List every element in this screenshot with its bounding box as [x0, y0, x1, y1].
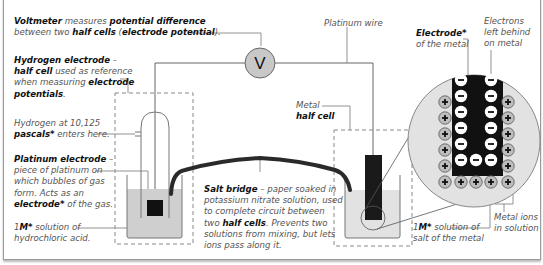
label-text: form. Acts as an	[14, 188, 84, 198]
voltmeter-symbol: V	[254, 54, 266, 73]
platinum-electrode-plate	[147, 200, 163, 216]
label-text: Electrode*	[416, 28, 466, 38]
label-text: solutions from mixing, but lets	[204, 229, 335, 239]
label-text: half cell	[296, 111, 334, 121]
label-text: Hydrogen at 10,125	[14, 118, 100, 128]
label-text: measures	[62, 16, 110, 26]
label-text: of the gas.	[64, 199, 113, 209]
label-text: electrode potential	[122, 27, 215, 37]
label-text: which bubbles of gas	[14, 176, 105, 186]
label-text: of the metal	[416, 39, 469, 49]
platinum-wire-label: Platinum wire	[324, 18, 383, 29]
label-text: ions pass along it.	[204, 240, 282, 250]
label-text: enters here.	[55, 129, 110, 139]
voltmeter: V	[245, 48, 275, 78]
metal-ions-label: Metal ions in solution	[494, 212, 539, 234]
label-text: M*	[19, 222, 32, 232]
hydrogen-electrode-label: Hydrogen electrode – half cell used as r…	[14, 55, 134, 100]
label-text: pascals*	[14, 129, 55, 139]
label-text: in solution	[494, 223, 539, 233]
label-text: solution of	[432, 222, 480, 232]
label-text: ).	[215, 27, 221, 37]
label-text: between two	[14, 27, 72, 37]
label-text: electrode	[88, 77, 134, 87]
label-text: Electrons	[484, 16, 524, 26]
label-text: Platinum wire	[324, 18, 383, 28]
label-text: potentials	[14, 89, 63, 99]
metal-electrode-rod	[365, 155, 382, 220]
label-text: left behind	[484, 27, 530, 37]
label-text: piece of platinum on	[14, 165, 102, 175]
electrode-metal-label: Electrode* of the metal	[416, 28, 469, 50]
label-text: used as reference	[52, 66, 132, 76]
label-text: Metal ions	[494, 212, 538, 222]
label-text: Hydrogen electrode	[14, 55, 110, 65]
label-text: when measuring	[14, 77, 88, 87]
hydrogen-gas-label: Hydrogen at 10,125 pascals* enters here.	[14, 118, 110, 140]
label-text: M*	[418, 222, 431, 232]
label-text: Voltmeter	[14, 16, 62, 26]
label-text: Platinum electrode	[14, 154, 106, 164]
label-text: . Prevents two	[266, 218, 328, 228]
label-text: – paper soaked in	[258, 184, 337, 194]
label-text: on metal	[484, 38, 522, 48]
hcl-solution-label: 1M* solution of hydrochloric acid.	[14, 222, 91, 244]
label-text: solution of	[33, 222, 81, 232]
label-text: potassium nitrate solution, used	[204, 195, 343, 205]
label-text: potential difference	[110, 16, 206, 26]
metal-half-cell-label: Metal half cell	[296, 100, 334, 122]
label-text: –	[110, 55, 117, 65]
magnified-view	[408, 70, 540, 207]
label-text: electrode*	[14, 199, 64, 209]
label-text: two	[204, 218, 222, 228]
label-text: half cell	[14, 66, 52, 76]
label-text: Metal	[296, 100, 320, 110]
salt-bridge-label: Salt bridge – paper soaked in potassium …	[204, 184, 343, 251]
label-text: salt of the metal	[413, 233, 484, 243]
label-text: half cells	[222, 218, 266, 228]
label-text: hydrochloric acid.	[14, 233, 91, 243]
label-text: Salt bridge	[204, 184, 258, 194]
metal-salt-solution-label: 1M* solution of salt of the metal	[413, 222, 484, 244]
label-text: –	[106, 154, 113, 164]
electrons-label: Electrons left behind on metal	[484, 16, 530, 50]
label-text: .	[63, 89, 66, 99]
label-text: to complete circuit between	[204, 206, 325, 216]
voltmeter-label: Voltmeter measures potential difference …	[14, 16, 221, 38]
platinum-electrode-label: Platinum electrode – piece of platinum o…	[14, 154, 113, 210]
label-text: half cells	[72, 27, 116, 37]
